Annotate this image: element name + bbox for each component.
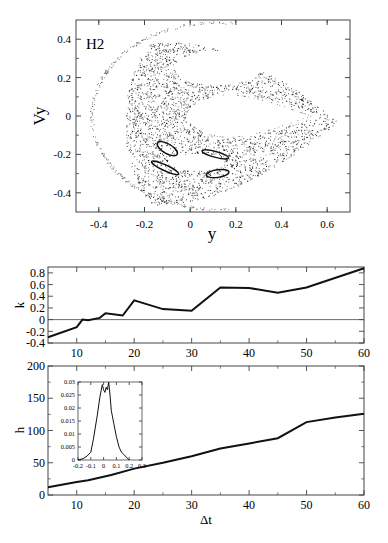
y-tick-label: 0.025 (61, 391, 75, 398)
y-tick-label: 0.03 (64, 378, 75, 385)
x-tick-label: 40 (243, 498, 255, 512)
y-axis-label: k (12, 301, 27, 308)
x-tick-label: 0.3 (138, 462, 146, 469)
y-tick-label: 100 (27, 424, 45, 438)
x-tick-label: 0.2 (229, 218, 243, 230)
x-axis-label: y (208, 224, 217, 243)
x-tick-label: -0.4 (90, 218, 108, 230)
y-tick-label: 0.01 (64, 430, 75, 437)
x-tick-label: 10 (71, 346, 83, 360)
y-tick-label: 0 (39, 488, 45, 502)
y-tick-label: 0.015 (61, 417, 75, 424)
y-tick-label: 0.4 (57, 33, 71, 45)
x-axis-label: Δt (200, 512, 212, 527)
y-tick-label: 200 (27, 359, 45, 373)
y-tick-label: -0.2 (54, 148, 71, 160)
x-tick-label: 40 (243, 346, 255, 360)
h-vs-dt-plot: 102030405060050100150200 h Δt -0.2-0.100… (12, 359, 370, 527)
x-tick-label: 10 (71, 498, 83, 512)
x-tick-label: -0.2 (136, 218, 153, 230)
axis-ticks: 102030405060-0.4-0.200.20.40.60.8 (26, 266, 370, 360)
y-axis-label: Vy (30, 106, 49, 125)
x-tick-label: 0.2 (125, 462, 133, 469)
y-tick-label: 0 (66, 110, 72, 122)
x-tick-label: 20 (128, 498, 140, 512)
x-tick-label: 50 (301, 346, 313, 360)
y-tick-label: 150 (27, 391, 45, 405)
k-vs-dt-plot: 102030405060-0.4-0.200.20.40.60.8 k (12, 266, 370, 360)
figure: -0.4-0.200.20.40.6-0.4-0.200.20.4 H2 y V… (0, 0, 388, 543)
x-tick-label: 0.1 (112, 462, 120, 469)
y-tick-label: 0 (72, 456, 75, 463)
x-tick-label: 30 (186, 346, 198, 360)
inset-distribution-plot: -0.2-0.100.10.20.300.0050.010.0150.020.0… (61, 378, 146, 469)
x-tick-label: 30 (186, 498, 198, 512)
poincare-plot: -0.4-0.200.20.40.6-0.4-0.200.20.4 H2 y V… (30, 20, 350, 243)
y-tick-label: 0.005 (61, 443, 75, 450)
y-axis-label: h (12, 426, 27, 433)
k-series-line (48, 268, 364, 337)
y-tick-label: 0.8 (30, 266, 45, 280)
plot-frame (48, 267, 364, 343)
x-tick-label: -0.1 (86, 462, 96, 469)
x-tick-label: 0 (187, 218, 193, 230)
y-tick-label: -0.4 (54, 187, 72, 199)
x-tick-label: 50 (301, 498, 313, 512)
x-tick-label: 60 (358, 498, 370, 512)
y-tick-label: 50 (33, 456, 45, 470)
x-tick-label: 0.4 (275, 218, 289, 230)
x-tick-label: 60 (358, 346, 370, 360)
x-tick-label: 20 (128, 346, 140, 360)
x-tick-label: 0.6 (320, 218, 334, 230)
scatter-points (90, 21, 337, 210)
x-tick-label: 0 (102, 462, 105, 469)
y-tick-label: 0.02 (64, 404, 75, 411)
y-tick-label: 0.2 (57, 72, 71, 84)
island-ring (150, 159, 179, 177)
panel-label: H2 (86, 36, 104, 52)
